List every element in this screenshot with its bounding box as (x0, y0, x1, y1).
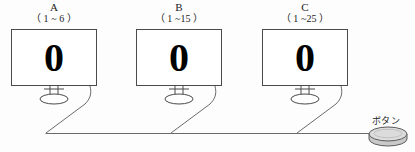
monitor-a-caption: A （ 1 ~ 6 ） (11, 2, 97, 24)
monitor-a-stand-base (40, 94, 68, 104)
monitor-b-stand-base (165, 94, 193, 104)
monitor-c-caption: C （ 1 ~25 ） (262, 2, 348, 24)
monitor-c-cable (297, 86, 342, 133)
monitor-c-stand-base (291, 94, 319, 104)
monitor-c-display-value: 0 (262, 38, 348, 78)
monitor-a-cable (46, 86, 91, 133)
diagram-canvas: A （ 1 ~ 6 ） B （ 1 ~15 ） C （ 1 ~25 ） 0 0 … (0, 0, 415, 152)
monitor-b-display-value: 0 (136, 38, 222, 78)
monitor-c-range: （ 1 ~25 ） (262, 14, 348, 25)
monitor-a-name: A (11, 2, 97, 14)
monitor-b-name: B (136, 2, 222, 14)
monitor-c-name: C (262, 2, 348, 14)
monitor-b-range: （ 1 ~15 ） (136, 14, 222, 25)
button-label: ボタン (372, 114, 400, 127)
monitor-a-range: （ 1 ~ 6 ） (11, 14, 97, 25)
monitor-a-display-value: 0 (11, 38, 97, 78)
button-puck[interactable] (369, 127, 407, 146)
monitor-b-caption: B （ 1 ~15 ） (136, 2, 222, 24)
monitor-b-cable (171, 86, 216, 133)
